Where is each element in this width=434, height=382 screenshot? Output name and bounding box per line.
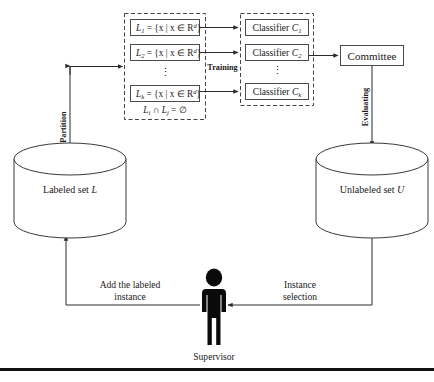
workflow-diagram-canvas: L1 = {x | x ∈ Rd} L2 = {x | x ∈ Rd} Lk =… bbox=[0, 0, 434, 382]
partition-edge-label: Partition bbox=[59, 111, 68, 143]
classifier-label-k: Classifier Ck bbox=[253, 86, 303, 98]
add-labeled-instance-label-line1: Add the labeled bbox=[100, 279, 161, 290]
partition-vertical-dots: ⋮ bbox=[160, 66, 171, 78]
supervisor-figure bbox=[202, 269, 226, 346]
bottom-divider-rule bbox=[0, 368, 434, 371]
set-label-k: Lk = {x | x ∈ Rd} bbox=[135, 88, 201, 100]
instance-selection-label-line2: selection bbox=[283, 291, 317, 302]
training-edge-label: Training bbox=[207, 63, 238, 72]
diagram-root: L1 = {x | x ∈ Rd} L2 = {x | x ∈ Rd} Lk =… bbox=[0, 0, 434, 382]
add-labeled-instance-label-line2: instance bbox=[114, 291, 145, 302]
evaluating-edge-label: Evaluating bbox=[361, 87, 370, 126]
set-label-1: L1 = {x | x ∈ Rd} bbox=[135, 22, 201, 34]
classifier-label-2: Classifier C2 bbox=[253, 47, 303, 59]
unlabeled-set-label: Unlabeled set U bbox=[340, 184, 405, 195]
supervisor-caption: Supervisor bbox=[193, 351, 235, 362]
committee-label: Committee bbox=[348, 50, 397, 62]
partition-disjoint-constraint: Li ∩ Lj = ∅ bbox=[142, 105, 186, 116]
labeled-set-label: Labeled set L bbox=[43, 184, 97, 195]
instance-selection-label-line1: Instance bbox=[284, 279, 316, 290]
classifier-label-1: Classifier C1 bbox=[253, 22, 302, 34]
set-label-2: L2 = {x | x ∈ Rd} bbox=[135, 47, 201, 59]
classifier-vertical-dots: ⋮ bbox=[272, 64, 283, 76]
